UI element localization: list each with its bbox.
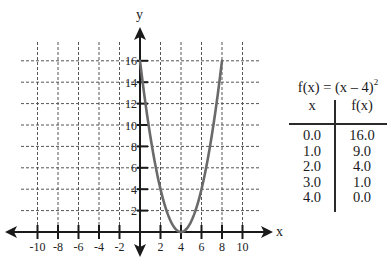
y-axis-label: y (136, 7, 143, 22)
x-tick-label: 6 (199, 240, 205, 254)
y-tick-label: 8 (131, 140, 137, 154)
value-table: f(x) = (x – 4)2 x f(x) 0.0 1.0 2.0 3.0 4… (287, 74, 389, 216)
table-cell-fx: 0.0 (337, 190, 387, 206)
y-tick-label: 6 (131, 161, 137, 175)
column-header-x: x (290, 97, 334, 114)
table-cell-x: 4.0 (290, 190, 334, 206)
table-cell-fx: 4.0 (337, 159, 387, 175)
x-tick-label: -2 (115, 240, 125, 254)
table-cell-x: 3.0 (290, 175, 334, 191)
x-tick-label: -10 (30, 240, 46, 254)
column-divider (334, 100, 336, 212)
table-cell-x: 2.0 (290, 159, 334, 175)
y-tick-label: 10 (125, 119, 137, 133)
x-tick-label: -8 (53, 240, 63, 254)
x-tick-label: 10 (237, 240, 249, 254)
column-x-values: 0.0 1.0 2.0 3.0 4.0 (290, 128, 334, 206)
column-fx-values: 16.0 9.0 4.0 1.0 0.0 (337, 128, 387, 206)
x-tick-label: -6 (74, 240, 84, 254)
function-graph: -10-8-6-4-2246810246810121416 x y (0, 0, 285, 264)
header-divider (289, 123, 387, 125)
function-title-exponent: 2 (374, 77, 379, 87)
table-cell-fx: 16.0 (337, 128, 387, 144)
function-title-text: f(x) = (x – 4) (298, 79, 374, 95)
y-tick-label: 12 (125, 97, 137, 111)
y-tick-label: 14 (125, 76, 137, 90)
y-tick-label: 16 (125, 54, 137, 68)
x-axis-label: x (276, 224, 283, 239)
x-tick-label: 4 (178, 240, 184, 254)
x-tick-label: -4 (94, 240, 104, 254)
column-header-fx: f(x) (337, 97, 387, 114)
x-tick-label: 8 (219, 240, 225, 254)
table-cell-fx: 1.0 (337, 175, 387, 191)
y-tick-label: 4 (131, 183, 137, 197)
function-title: f(x) = (x – 4)2 (287, 77, 389, 96)
table-cell-x: 1.0 (290, 144, 334, 160)
table-cell-fx: 9.0 (337, 144, 387, 160)
x-tick-label: 2 (158, 240, 164, 254)
y-tick-label: 2 (131, 204, 137, 218)
table-cell-x: 0.0 (290, 128, 334, 144)
